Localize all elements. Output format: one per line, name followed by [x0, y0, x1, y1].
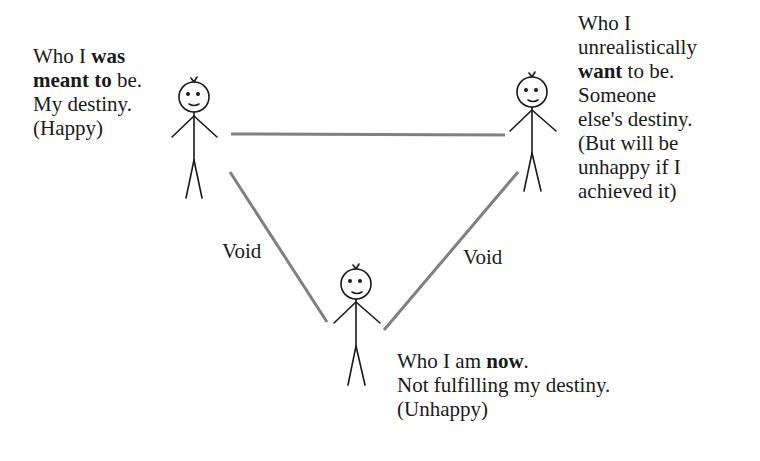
label-line: Who I	[578, 11, 697, 35]
text-run: unrealistically	[578, 35, 697, 59]
label-line: achieved it)	[578, 179, 697, 203]
text-run: Someone	[578, 83, 656, 107]
label-line: Who I am now.	[397, 349, 610, 373]
label-line: Someone	[578, 83, 697, 107]
text-run: (Happy)	[33, 116, 103, 140]
text-run-bold: was	[91, 44, 125, 68]
stick-figure-meant-to-be	[172, 77, 217, 198]
label-line: unhappy if I	[578, 155, 697, 179]
label-line: meant to be.	[33, 68, 142, 92]
label-am-now: Who I am now. Not fulfilling my destiny.…	[397, 349, 610, 421]
text-run-bold: meant to	[33, 68, 112, 92]
text-run: Not fulfilling my destiny.	[397, 373, 610, 397]
label-line: unrealistically	[578, 35, 697, 59]
label-line: Who I was	[33, 44, 142, 68]
text-run: (Unhappy)	[397, 397, 488, 421]
text-run: be.	[112, 68, 142, 92]
text-run: Who I	[578, 11, 631, 35]
edge-label-void-left: Void	[222, 239, 261, 263]
text-run: else's destiny.	[578, 107, 692, 131]
text-run: achieved it)	[578, 179, 677, 203]
label-line: (Happy)	[33, 116, 142, 140]
label-line: else's destiny.	[578, 107, 697, 131]
text-run: .	[524, 349, 529, 373]
text-run: Who I am	[397, 349, 486, 373]
text-run-bold: want	[578, 59, 622, 83]
edge-label-void-right: Void	[463, 245, 502, 269]
label-line: want to be.	[578, 59, 697, 83]
label-line: (Unhappy)	[397, 397, 610, 421]
text-run-bold: now	[486, 349, 523, 373]
text-run: Who I	[33, 44, 91, 68]
text-run: My destiny.	[33, 92, 132, 116]
edge-meant-to-want	[231, 134, 505, 135]
text-run: to be.	[622, 59, 674, 83]
text-run: unhappy if I	[578, 155, 681, 179]
label-line: (But will be	[578, 131, 697, 155]
text-run: (But will be	[578, 131, 678, 155]
label-meant-to-be: Who I was meant to be. My destiny. (Happ…	[33, 44, 142, 140]
label-line: Not fulfilling my destiny.	[397, 373, 610, 397]
label-line: My destiny.	[33, 92, 142, 116]
label-want-to-be: Who I unrealistically want to be. Someon…	[578, 11, 697, 203]
stick-figure-am-now	[334, 264, 380, 385]
